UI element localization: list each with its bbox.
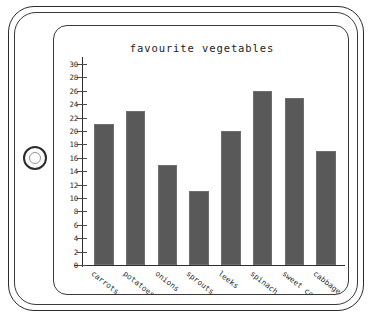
- y-tick-label: 24: [53, 100, 78, 109]
- y-tick-mark: [77, 211, 87, 212]
- y-tick-mark: [77, 225, 87, 226]
- y-tick-label: 10: [53, 194, 78, 203]
- bar: [126, 111, 146, 265]
- y-tick-label: 8: [53, 207, 78, 216]
- x-tick-label: spinach: [248, 269, 279, 295]
- x-tick-label: leeks: [216, 269, 240, 290]
- y-axis-line: [82, 57, 83, 267]
- bar: [189, 191, 209, 265]
- y-tick-mark: [77, 252, 87, 253]
- y-tick-mark: [77, 171, 87, 172]
- y-tick-label: 20: [53, 127, 78, 136]
- bar-chart: favourite vegetables 0246810121416182022…: [54, 26, 349, 295]
- x-tick-label: onions: [153, 269, 181, 293]
- bar: [94, 124, 114, 265]
- y-tick-label: 0: [53, 261, 78, 270]
- y-tick-label: 4: [53, 234, 78, 243]
- y-tick-label: 12: [53, 181, 78, 190]
- bar: [253, 91, 273, 265]
- y-tick-label: 26: [53, 87, 78, 96]
- y-tick-mark: [77, 118, 87, 119]
- bar: [221, 131, 241, 265]
- bar: [316, 151, 336, 265]
- x-tick-label: potatoes: [121, 269, 156, 295]
- y-tick-label: 16: [53, 154, 78, 163]
- y-tick-label: 18: [53, 140, 78, 149]
- y-tick-label: 2: [53, 248, 78, 257]
- y-tick-mark: [77, 64, 87, 65]
- y-tick-mark: [77, 104, 87, 105]
- tablet-device-frame: favourite vegetables 0246810121416182022…: [8, 6, 364, 311]
- bar: [285, 98, 305, 266]
- y-tick-label: 28: [53, 73, 78, 82]
- y-tick-label: 6: [53, 221, 78, 230]
- tablet-screen: favourite vegetables 0246810121416182022…: [53, 25, 349, 295]
- y-tick-mark: [77, 198, 87, 199]
- y-tick-label: 14: [53, 167, 78, 176]
- y-tick-label: 22: [53, 114, 78, 123]
- y-tick-mark: [77, 91, 87, 92]
- x-axis-line: [74, 265, 345, 266]
- home-button-inner-ring: [29, 152, 41, 164]
- x-tick-label: cabbage: [312, 269, 343, 295]
- y-tick-mark: [77, 77, 87, 78]
- home-button[interactable]: [23, 146, 47, 170]
- y-tick-mark: [77, 265, 87, 266]
- y-tick-label: 30: [53, 60, 78, 69]
- y-tick-mark: [77, 144, 87, 145]
- y-tick-mark: [77, 158, 87, 159]
- y-tick-mark: [77, 185, 87, 186]
- bar: [158, 165, 178, 266]
- y-tick-mark: [77, 238, 87, 239]
- y-tick-mark: [77, 131, 87, 132]
- chart-title: favourite vegetables: [54, 42, 349, 54]
- x-tick-label: carrots: [89, 269, 120, 295]
- x-tick-label: sprouts: [185, 269, 216, 295]
